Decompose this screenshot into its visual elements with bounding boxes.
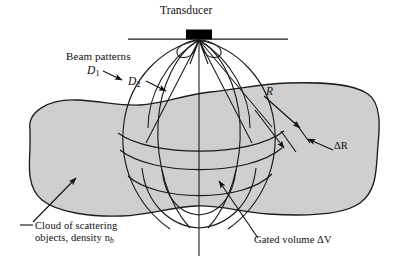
range-thickness-label: ΔR: [334, 140, 348, 152]
beam-pattern-d2-label: D2: [128, 75, 141, 90]
main-lobe-ray-a: [190, 40, 199, 64]
d2-subscript: 2: [136, 80, 140, 89]
cloud-label-line1: Cloud of scattering: [35, 220, 117, 231]
cloud-label-line2-prefix: objects, density: [35, 232, 105, 243]
range-r-label: R: [266, 85, 273, 98]
transducer-block: [186, 30, 212, 40]
d1-subscript: 1: [95, 69, 99, 78]
density-subscript: b: [110, 236, 114, 245]
transducer-label: Transducer: [160, 4, 212, 17]
scattering-cloud-label: Cloud of scattering objects, density nb: [35, 220, 117, 246]
leader-d1: [103, 71, 122, 80]
beam-patterns-label: Beam patterns: [66, 50, 131, 62]
scattering-diagram-figure: Transducer Beam patterns D1 D2 R ΔR Clou…: [0, 0, 395, 265]
main-lobe-ray-b: [199, 40, 208, 64]
beam-pattern-d1-label: D1: [87, 64, 100, 79]
gated-volume-label: Gated volume ΔV: [254, 234, 332, 246]
